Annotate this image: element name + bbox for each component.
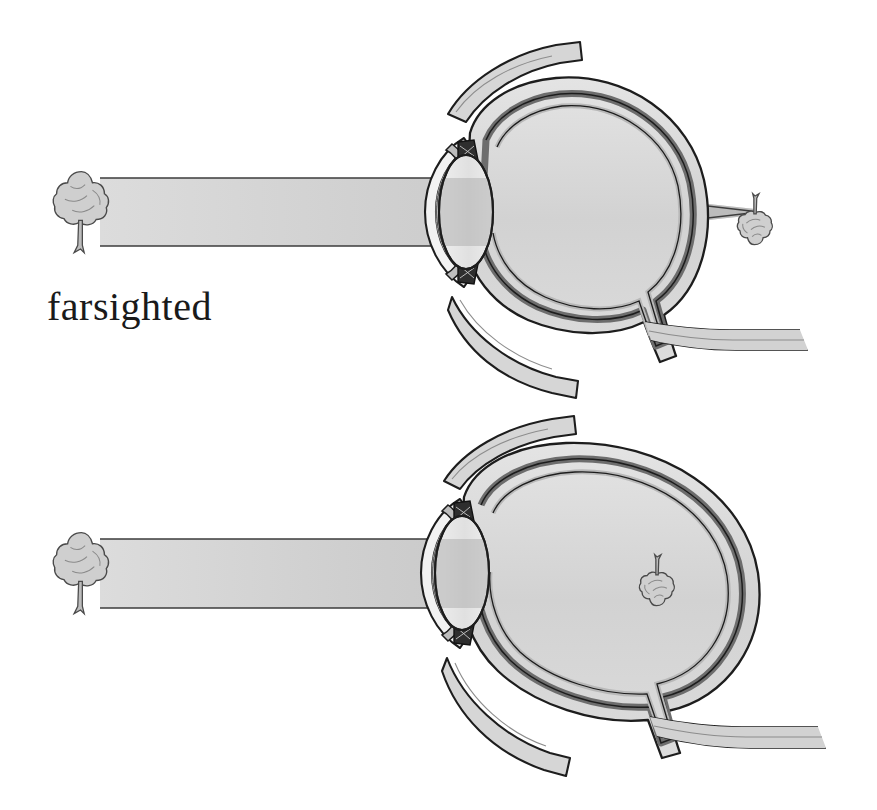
panel-nearsighted: nearsighted	[0, 405, 877, 810]
sclera	[460, 443, 760, 758]
panel-label-farsighted: farsighted	[47, 287, 212, 327]
nearsighted-eye-diagram	[0, 405, 877, 810]
lens	[439, 155, 493, 269]
panel-farsighted: farsighted	[0, 0, 877, 405]
figure-page: farsighted	[0, 0, 877, 810]
inverted-tree-icon	[737, 194, 772, 245]
farsighted-eye-diagram	[0, 0, 877, 405]
lens	[435, 516, 489, 630]
